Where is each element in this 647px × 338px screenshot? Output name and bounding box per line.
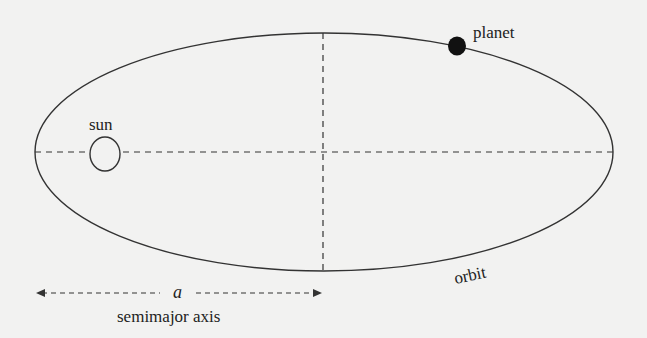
sun-label: sun — [89, 116, 113, 133]
sun-icon — [90, 137, 120, 171]
semimajor-symbol: a — [173, 283, 182, 301]
arrowhead-left-icon — [36, 289, 45, 297]
semimajor-axis-caption: semimajor axis — [117, 308, 220, 325]
planet-label: planet — [473, 24, 515, 41]
planet-icon — [448, 37, 466, 56]
orbit-diagram-graphic — [0, 0, 647, 338]
orbit-diagram: planet sun orbit a semimajor axis — [0, 0, 647, 338]
arrowhead-right-icon — [313, 289, 322, 297]
